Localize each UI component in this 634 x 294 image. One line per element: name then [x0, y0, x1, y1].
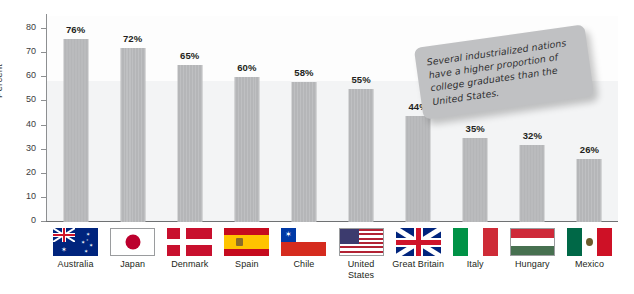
country-label-line: Japan: [104, 259, 161, 270]
bar-value-label: 72%: [123, 33, 142, 44]
bar[interactable]: [234, 77, 259, 222]
y-tick-label: 50: [14, 95, 36, 104]
bar-value-label: 65%: [180, 50, 199, 61]
bar-slot: 76%: [47, 16, 104, 222]
country-label: Italy: [447, 259, 504, 270]
y-tick-label: 20: [14, 168, 36, 177]
bar-value-label: 35%: [466, 123, 485, 134]
bar[interactable]: [291, 82, 316, 222]
country-cell: Japan: [104, 228, 161, 270]
country-label: Japan: [104, 259, 161, 270]
y-tick-label: 10: [14, 192, 36, 201]
y-tick-label: 70: [14, 47, 36, 56]
country-label: Great Britain: [390, 259, 447, 270]
bar-value-label: 32%: [523, 130, 542, 141]
country-label: Denmark: [161, 259, 218, 270]
y-tick: [41, 173, 46, 174]
flag-great-britain-icon: [396, 228, 441, 256]
country-cell: Hungary: [504, 228, 561, 270]
y-tick: [41, 197, 46, 198]
flag-spain-icon: [224, 228, 269, 256]
y-tick: [41, 52, 46, 53]
y-tick-label: 80: [14, 23, 36, 32]
bar-value-label: 26%: [580, 144, 599, 155]
country-label: UnitedStates: [333, 259, 390, 280]
flag-mexico-icon: [567, 228, 612, 256]
bar-slot: 58%: [275, 16, 332, 222]
flag-denmark-icon: [167, 228, 212, 256]
bar[interactable]: [63, 39, 88, 222]
country-label-line: Denmark: [161, 259, 218, 270]
country-label-line: Mexico: [561, 259, 618, 270]
y-tick: [41, 125, 46, 126]
country-label-line: Australia: [47, 259, 104, 270]
bar-value-label: 55%: [351, 74, 370, 85]
bar-value-label: 58%: [294, 67, 313, 78]
country-cell: Denmark: [161, 228, 218, 270]
y-tick: [41, 149, 46, 150]
country-label: Australia: [47, 259, 104, 270]
y-tick: [41, 100, 46, 101]
y-tick-label: 40: [14, 120, 36, 129]
bar[interactable]: [406, 116, 431, 222]
country-label: Chile: [275, 259, 332, 270]
flag-italy-icon: [453, 228, 498, 256]
y-tick-label: 60: [14, 71, 36, 80]
bar-slot: 65%: [161, 16, 218, 222]
bar-value-label: 60%: [237, 62, 256, 73]
country-cell: ✶Chile: [275, 228, 332, 270]
country-label: Spain: [218, 259, 275, 270]
flag-australia-icon: ✶ ✶ ✶ ✶ ✶ ✶: [53, 228, 98, 256]
y-tick-label: 0: [14, 216, 36, 225]
chart-page: 01020304050607080 Percent 76%72%65%60%58…: [0, 0, 634, 294]
bar[interactable]: [349, 89, 374, 222]
country-label-line: States: [333, 270, 390, 281]
country-cell: UnitedStates: [333, 228, 390, 280]
country-cell: Mexico: [561, 228, 618, 270]
bar[interactable]: [520, 145, 545, 222]
bar[interactable]: [177, 65, 202, 222]
flag-japan-icon: [110, 228, 155, 256]
y-axis-label: Percent: [0, 64, 4, 98]
country-cell: Spain: [218, 228, 275, 270]
bar[interactable]: [120, 48, 145, 222]
country-label-line: Hungary: [504, 259, 561, 270]
y-tick: [41, 221, 46, 222]
country-label-line: Italy: [447, 259, 504, 270]
flag-united-states-icon: [339, 228, 384, 256]
bar-slot: 55%: [333, 16, 390, 222]
bar-slot: 72%: [104, 16, 161, 222]
country-cell: Italy: [447, 228, 504, 270]
country-label-line: Great Britain: [390, 259, 447, 270]
country-label: Hungary: [504, 259, 561, 270]
country-label: Mexico: [561, 259, 618, 270]
y-tick: [41, 28, 46, 29]
bar[interactable]: [577, 159, 602, 222]
flag-chile-icon: ✶: [281, 228, 326, 256]
y-tick: [41, 76, 46, 77]
country-label-line: United: [333, 259, 390, 270]
country-cell: ✶ ✶ ✶ ✶ ✶ ✶Australia: [47, 228, 104, 270]
bar[interactable]: [463, 138, 488, 222]
flag-hungary-icon: [510, 228, 555, 256]
y-tick-label: 30: [14, 144, 36, 153]
country-label-line: Spain: [218, 259, 275, 270]
country-label-line: Chile: [275, 259, 332, 270]
country-flag-row: ✶ ✶ ✶ ✶ ✶ ✶Australia Japan Denmark Spain…: [47, 228, 618, 288]
country-cell: Great Britain: [390, 228, 447, 270]
bar-value-label: 76%: [66, 24, 85, 35]
bar-slot: 60%: [218, 16, 275, 222]
